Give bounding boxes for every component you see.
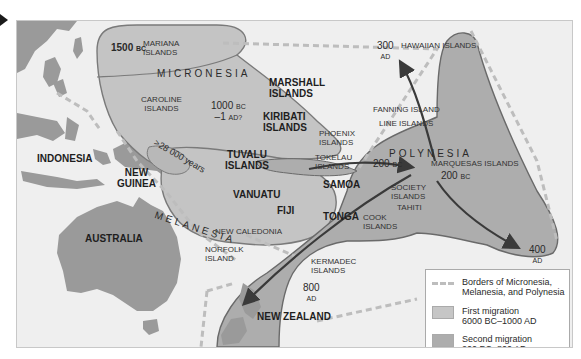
legend-item-borders: Borders of Micronesia, Melanesia, and Po… <box>432 277 565 297</box>
label-tonga: TONGA <box>323 211 359 222</box>
date-hawaii: 300 AD <box>377 41 394 62</box>
label-kermadec-islands: KERMADEC ISLANDS <box>311 257 356 275</box>
indonesia-landmass <box>17 113 65 141</box>
map-legend: Borders of Micronesia, Melanesia, and Po… <box>425 269 570 348</box>
label-tahiti: TAHITI <box>397 203 422 212</box>
label-new-zealand: NEW ZEALAND <box>257 311 331 322</box>
date-new-zealand: 800 AD <box>303 283 320 304</box>
date-marquesas: 200 BC <box>441 171 470 182</box>
label-mariana-islands: MARIANA ISLANDS <box>143 39 179 57</box>
tasmania-landmass <box>143 319 159 335</box>
region-label-polynesia: POLYNESIA <box>389 149 472 158</box>
label-fanning-island: FANNING ISLAND <box>373 105 440 114</box>
label-vanuatu: VANUATU <box>233 189 280 200</box>
legend-item-first-migration: First migration 6000 BC–1000 AD <box>432 306 537 326</box>
label-kiribati-islands: KIRIBATI ISLANDS <box>263 111 307 133</box>
label-norfolk-island: NORFOLK ISLAND <box>205 245 244 263</box>
label-fiji: FIJI <box>277 205 294 216</box>
label-marshall-islands: MARSHALL ISLANDS <box>269 77 325 99</box>
label-phoenix-islands: PHOENIX ISLANDS <box>319 129 355 147</box>
label-cook-islands: COOK ISLANDS <box>363 213 397 231</box>
date-easter-island: 400 AD <box>529 245 546 266</box>
label-tuvalu-islands: TUVALU ISLANDS <box>225 149 269 171</box>
label-society-islands: SOCIETY ISLANDS <box>391 183 426 201</box>
label-line-islands: LINE ISLANDS <box>379 119 433 128</box>
light-gray-swatch-icon <box>432 306 454 319</box>
label-marquesas-islands: MARQUESAS ISLANDS <box>431 159 519 168</box>
label-samoa: SAMOA <box>323 179 360 190</box>
dashed-line-swatch-icon <box>432 277 454 290</box>
legend-item-second-migration: Second migration 200 BC–800 AD <box>432 334 532 348</box>
label-new-caledonia: NEW CALEDONIA <box>215 227 282 236</box>
region-label-micronesia: MICRONESIA <box>157 69 250 78</box>
label-hawaiian-islands: HAWAIIAN ISLANDS <box>401 41 476 50</box>
date-tokelau-arrow: 200 BC <box>373 159 402 170</box>
dark-gray-swatch-icon <box>432 334 454 347</box>
label-new-guinea: NEW GUINEA <box>117 167 156 189</box>
label-indonesia: INDONESIA <box>37 153 93 164</box>
date-mariana: 1500 BC <box>111 43 146 54</box>
date-micronesia: 1000 BC –1 AD? <box>211 101 246 123</box>
label-tokelau-islands: TOKELAU ISLANDS <box>315 153 352 171</box>
pacific-migration-map: MICRONESIA MELANESIA POLYNESIA INDONESIA… <box>16 20 573 348</box>
page-pointer-arrow-icon <box>0 14 8 26</box>
label-australia: AUSTRALIA <box>85 233 143 244</box>
label-caroline-islands: CAROLINE ISLANDS <box>141 95 182 113</box>
